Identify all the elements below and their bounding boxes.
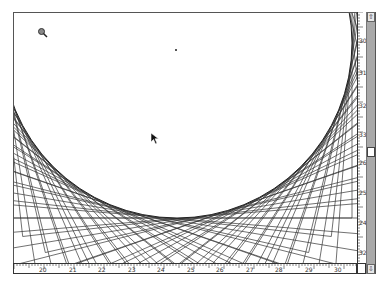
hruler-label: 22	[98, 267, 106, 273]
ruler-corner	[357, 263, 366, 274]
hruler-label: 28	[275, 267, 283, 273]
up-arrow-icon: ⇧	[368, 13, 374, 21]
hruler-label: 24	[157, 267, 165, 273]
scroll-up-button[interactable]: ⇧	[367, 12, 375, 22]
hruler-label: 29	[305, 267, 313, 273]
zoom-tool-icon	[37, 27, 49, 39]
hruler-label: 27	[246, 267, 254, 273]
hruler-label: 30	[334, 267, 342, 273]
scroll-down-button[interactable]: ⇩	[367, 264, 375, 274]
hruler-label: 21	[69, 267, 77, 273]
string-art-drawing	[14, 13, 358, 264]
hruler-label: 26	[216, 267, 224, 273]
hruler-label: 20	[39, 267, 47, 273]
hruler-label: 23	[128, 267, 136, 273]
arrow-cursor-icon	[150, 132, 160, 145]
center-point-marker	[175, 49, 177, 51]
down-arrow-icon: ⇩	[368, 265, 374, 273]
drawing-canvas[interactable]	[13, 12, 358, 264]
vertical-ruler: 30 31 32 33 26 25 24 32	[357, 12, 366, 263]
hruler-label: 25	[187, 267, 195, 273]
vertical-scrollbar[interactable]: ⇧ ⇩	[366, 12, 376, 274]
scrollbar-thumb[interactable]	[367, 147, 375, 157]
horizontal-ruler: 20 21 22 23 24 25 26 27 28 29 30	[13, 263, 357, 274]
